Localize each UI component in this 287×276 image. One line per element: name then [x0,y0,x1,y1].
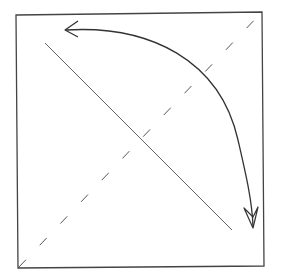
square-outline [16,12,264,268]
reflection-diagram [0,0,287,276]
curved-arrow [66,30,253,226]
arrowhead-down-icon [244,207,258,228]
solid-diagonal [45,43,232,230]
diagram-canvas [0,0,287,276]
dashed-diagonal [19,13,261,267]
